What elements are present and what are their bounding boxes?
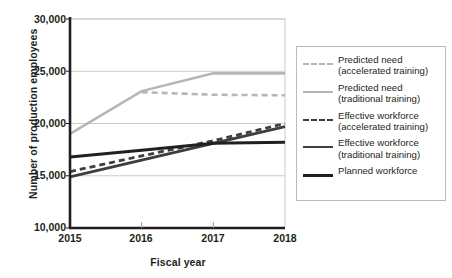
series-lines: [70, 73, 285, 176]
legend-label: Predicted need (traditional training): [338, 82, 420, 105]
legend-item: Planned workforce: [303, 165, 441, 180]
chart-legend: Predicted need (accelerated training) Pr…: [296, 46, 446, 201]
legend-swatch-planned-workforce: [303, 168, 333, 180]
legend-swatch-predicted-need-traditional: [303, 85, 333, 97]
gridlines: [70, 19, 285, 228]
legend-swatch-predicted-need-accelerated: [303, 57, 333, 69]
legend-swatch-effective-workforce-accelerated: [303, 113, 333, 125]
legend-label: Effective workforce (traditional trainin…: [338, 137, 420, 160]
legend-swatch-effective-workforce-traditional: [303, 140, 333, 152]
axis-lines: [69, 17, 285, 228]
x-tick-label: 2018: [255, 232, 315, 244]
legend-label: Predicted need (accelerated training): [338, 54, 428, 77]
legend-item: Effective workforce (traditional trainin…: [303, 137, 441, 160]
legend-item: Effective workforce (accelerated trainin…: [303, 110, 441, 133]
legend-item: Predicted need (traditional training): [303, 82, 441, 105]
x-tick-label: 2016: [111, 232, 171, 244]
legend-label: Planned workforce: [338, 165, 417, 176]
plot-area: [0, 0, 300, 250]
legend-item: Predicted need (accelerated training): [303, 54, 441, 77]
x-tick-label: 2015: [40, 232, 100, 244]
chart-figure: Number of production employees 30,000 25…: [0, 0, 452, 278]
x-tick-label: 2017: [183, 232, 243, 244]
x-axis-title: Fiscal year: [70, 256, 286, 268]
x-axis-tick-labels: 2015 2016 2017 2018: [0, 232, 300, 252]
legend-label: Effective workforce (accelerated trainin…: [338, 110, 428, 133]
